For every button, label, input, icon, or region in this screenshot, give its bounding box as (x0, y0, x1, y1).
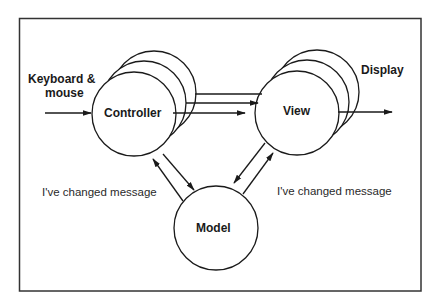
mvc-diagram-canvas (0, 0, 439, 305)
output-label: Display (361, 63, 404, 77)
message-right: I've changed message (277, 185, 392, 197)
view-model-arrows (234, 143, 273, 194)
message-left: I've changed message (42, 186, 157, 198)
view-label: View (283, 104, 310, 118)
input-label-line2: mouse (45, 86, 84, 100)
controller-node (92, 51, 196, 156)
controller-model-arrows (153, 154, 194, 201)
view-node (255, 50, 359, 155)
input-label-line1: Keyboard & (28, 72, 95, 86)
model-label: Model (196, 221, 231, 235)
controller-label: Controller (104, 106, 161, 120)
